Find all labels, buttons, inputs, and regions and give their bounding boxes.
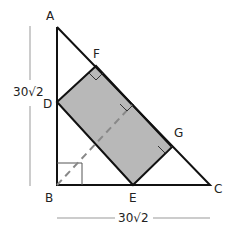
horizontal-dimension-label: 30√2 <box>118 212 149 224</box>
point-label-b: B <box>45 192 53 204</box>
point-label-a: A <box>46 10 54 22</box>
point-label-f: F <box>93 48 100 60</box>
point-label-g: G <box>174 127 183 139</box>
point-label-e: E <box>129 192 137 204</box>
point-label-c: C <box>214 183 222 195</box>
vertical-dimension-label: 30√2 <box>13 86 44 98</box>
point-label-d: D <box>43 98 52 110</box>
geometry-diagram <box>0 0 230 232</box>
